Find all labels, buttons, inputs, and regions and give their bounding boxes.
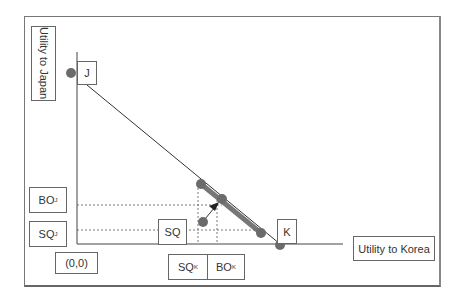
bargaining-segment (201, 184, 261, 233)
x-tick-bo-k-main: BO (216, 261, 232, 273)
dot-segment-bottom (256, 228, 266, 238)
y-tick-sq-j-main: SQ (39, 228, 55, 240)
dot-segment-top (196, 179, 206, 189)
point-label-sq: SQ (158, 219, 187, 245)
x-tick-sq-k: SQK (168, 254, 208, 280)
origin-label: (0,0) (55, 252, 98, 274)
arrowhead-icon (209, 202, 219, 211)
point-label-k: K (277, 219, 297, 244)
y-tick-sq-j-sub: J (54, 231, 57, 237)
x-axis-label: Utility to Korea (353, 236, 435, 261)
x-tick-sq-k-sub: K (194, 264, 198, 270)
x-tick-bo-k-sub: K (232, 264, 236, 270)
y-tick-bo-j-main: BO (39, 194, 55, 206)
y-tick-bo-j: BOJ (29, 187, 67, 213)
dot-j (66, 68, 76, 78)
dot-bargaining-outcome (217, 194, 227, 204)
dot-status-quo (198, 217, 208, 227)
x-tick-sq-k-main: SQ (178, 261, 194, 273)
y-tick-bo-j-sub: J (54, 197, 57, 203)
point-label-j: J (77, 61, 97, 85)
y-tick-sq-j: SQJ (29, 221, 67, 247)
y-axis-label: Utility to Japan (31, 26, 56, 101)
x-tick-bo-k: BOK (207, 254, 245, 280)
